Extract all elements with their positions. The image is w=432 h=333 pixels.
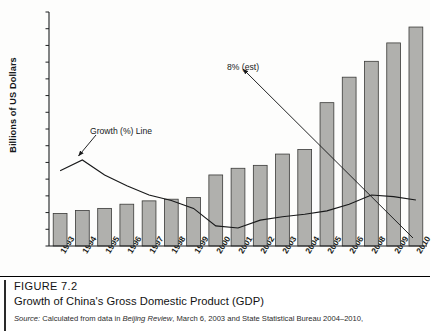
chart-svg: [0, 0, 430, 274]
bar-2009: [387, 43, 401, 246]
bar-2001: [231, 168, 245, 246]
bar-1995: [98, 208, 112, 246]
annotation-8pct-est: 8% (est): [227, 62, 259, 72]
bar-1993: [53, 213, 67, 246]
figure-number: FIGURE 7.2: [14, 280, 77, 292]
bar-1996: [120, 204, 134, 246]
annotation-growth-line: Growth (%) Line: [90, 126, 152, 136]
bar-1999: [187, 198, 201, 246]
bar-1997: [142, 201, 156, 246]
bar-2002: [253, 165, 267, 246]
caption-accent-bar: [4, 280, 6, 331]
bar-series: [53, 27, 423, 246]
source-text-b: , March 6, 2003 and State Statistical Bu…: [172, 314, 363, 323]
source-publication: Beijing Review: [123, 314, 173, 323]
bar-2010: [409, 27, 423, 246]
bar-2008: [365, 61, 379, 246]
bar-1994: [75, 210, 89, 246]
source-text-a2: Calculated from data in: [42, 314, 120, 323]
bar-2004: [298, 149, 312, 246]
caption-divider: [0, 276, 430, 277]
figure-source-note: Source: Calculated from data in Beijing …: [14, 314, 363, 323]
chart-plot-region: Billions of US Dollars 04008001200160020…: [0, 0, 430, 274]
bar-2005: [320, 103, 334, 246]
figure-title: Growth of China's Gross Domestic Product…: [14, 295, 264, 307]
source-label: Source:: [14, 314, 40, 323]
bar-2006: [342, 77, 356, 246]
bar-2003: [276, 154, 290, 246]
bar-1998: [164, 199, 178, 246]
figure-caption-block: FIGURE 7.2 Growth of China's Gross Domes…: [0, 276, 430, 333]
bar-2000: [209, 175, 223, 246]
